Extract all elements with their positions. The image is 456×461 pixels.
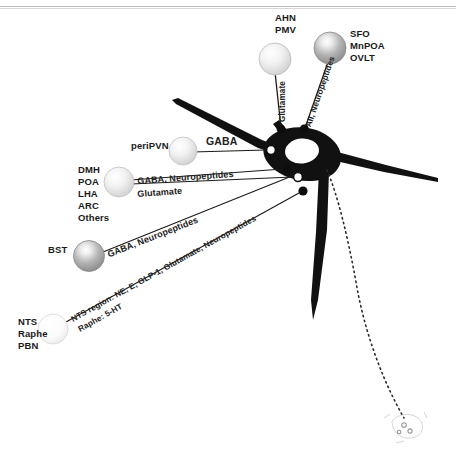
label-dmh: DMH bbox=[78, 164, 100, 176]
label-ovlt: OVLT bbox=[350, 52, 375, 64]
transmitter-gaba: GABA bbox=[206, 136, 237, 148]
terminal-dmh-open bbox=[294, 173, 303, 182]
label-nts: NTS bbox=[18, 316, 37, 328]
dendrite-descending bbox=[311, 170, 329, 320]
figure-canvas: AHN PMV SFO MnPOA OVLT Glutamate AII, Ne… bbox=[0, 0, 456, 461]
axon-line-peripvn bbox=[192, 150, 266, 152]
sphere-peripvn bbox=[169, 137, 197, 165]
label-poa: POA bbox=[78, 176, 99, 188]
axon-terminal-sketch bbox=[384, 412, 427, 443]
axon-dotted bbox=[327, 170, 404, 418]
label-ahn: AHN bbox=[275, 12, 296, 24]
sphere-bst bbox=[74, 241, 105, 272]
label-others: Others bbox=[78, 212, 109, 224]
label-bst: BST bbox=[48, 244, 67, 256]
terminal-peripvn-open bbox=[267, 146, 276, 155]
label-raphe: Raphe bbox=[18, 328, 48, 340]
label-pmv: PMV bbox=[275, 24, 296, 36]
label-arc: ARC bbox=[78, 200, 99, 212]
terminal-nts-filled bbox=[298, 186, 307, 195]
label-peripvn: periPVN bbox=[131, 140, 169, 152]
sphere-dmh-group bbox=[104, 167, 134, 197]
sphere-ahn-pmv bbox=[259, 43, 291, 75]
terminal-dmh-filled bbox=[283, 165, 291, 173]
transmitter-glutamate-ahn: Glutamate bbox=[277, 81, 289, 122]
label-mnpoa: MnPOA bbox=[350, 40, 385, 52]
label-sfo: SFO bbox=[350, 28, 370, 40]
terminal-ahn-pmv-filled bbox=[277, 125, 286, 134]
label-lha: LHA bbox=[78, 188, 98, 200]
label-pbn: PBN bbox=[18, 340, 38, 352]
